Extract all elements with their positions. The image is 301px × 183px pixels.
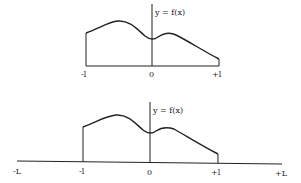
top-panel: y = f(x) -l 0 +l [81, 4, 222, 79]
bottom-tick-pos-L: +L [275, 169, 288, 178]
top-function-label: y = f(x) [154, 8, 185, 17]
bottom-function-label: y = f(x) [152, 106, 183, 115]
bottom-tick-neg-l: -l [79, 167, 85, 176]
bottom-tick-zero: 0 [147, 168, 152, 177]
top-tick-zero: 0 [149, 70, 154, 79]
bottom-panel: y = f(x) -L -l 0 +l +L [13, 102, 288, 178]
bottom-tick-neg-L: -L [13, 167, 22, 176]
bottom-tick-pos-l: +l [211, 168, 221, 177]
fourier-extension-diagram: y = f(x) -l 0 +l y = f(x) -L -l 0 +l +L [0, 0, 301, 183]
top-tick-pos-l: +l [212, 70, 222, 79]
top-tick-neg-l: -l [81, 70, 87, 79]
